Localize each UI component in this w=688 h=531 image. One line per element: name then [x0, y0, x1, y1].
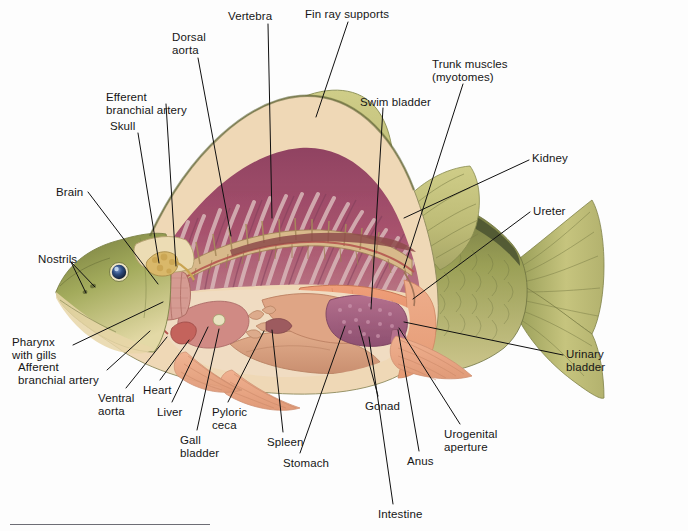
label-trunk-muscles: Trunk muscles (myotomes)	[432, 58, 508, 83]
label-vertebra: Vertebra	[228, 10, 272, 23]
label-fin-ray-supports: Fin ray supports	[305, 8, 389, 21]
fish-anatomy-illustration	[0, 0, 688, 531]
label-intestine: Intestine	[378, 508, 422, 521]
figure-canvas: VertebraFin ray supportsDorsal aortaTrun…	[0, 0, 688, 531]
label-ventral-aorta: Ventral aorta	[98, 392, 135, 417]
label-liver: Liver	[157, 406, 182, 419]
eye	[110, 263, 129, 282]
label-swim-bladder: Swim bladder	[360, 96, 431, 109]
label-afferent-branchial-artery: Afferent branchial artery	[18, 361, 99, 386]
label-brain: Brain	[56, 186, 83, 199]
label-pyloric-ceca: Pyloric ceca	[212, 406, 247, 431]
label-efferent-branchial-artery: Efferent branchial artery	[106, 91, 187, 116]
label-gall-bladder: Gall bladder	[180, 434, 219, 459]
label-heart: Heart	[143, 384, 172, 397]
label-urinary-bladder: Urinary bladder	[566, 348, 605, 373]
label-dorsal-aorta: Dorsal aorta	[172, 31, 206, 56]
label-stomach: Stomach	[283, 457, 329, 470]
label-anus: Anus	[407, 455, 434, 468]
footer-rule	[10, 524, 210, 525]
label-pharynx-with-gills: Pharynx with gills	[12, 336, 56, 361]
label-gonad: Gonad	[365, 400, 400, 413]
label-nostrils: Nostrils	[38, 253, 77, 266]
label-kidney: Kidney	[532, 152, 568, 165]
label-urogenital-aperture: Urogenital aperture	[444, 428, 497, 453]
gall-bladder	[213, 315, 225, 326]
label-ureter: Ureter	[533, 205, 566, 218]
label-skull: Skull	[110, 120, 135, 133]
label-spleen: Spleen	[267, 436, 303, 449]
